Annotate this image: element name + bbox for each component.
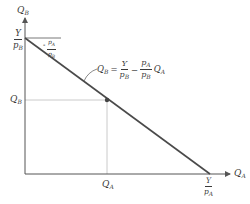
x-intercept-num: Y (205, 177, 212, 187)
budget-equation: QB = Y pB − pA pB QA (97, 59, 165, 80)
slope-num-sub: A (52, 42, 55, 47)
slope-num: pA (47, 39, 56, 50)
point-qb-label-sub: B (17, 98, 21, 105)
y-axis-label-sub: B (24, 9, 28, 16)
equation-minus: − (131, 65, 138, 75)
equation-term2-var-base: Q (154, 64, 161, 74)
equation-term1-den: pB (120, 70, 130, 80)
consumption-point (105, 98, 109, 102)
equation-pointer (84, 69, 97, 81)
equation-term1-den-sub: B (125, 73, 129, 80)
equation-term2-num: pA (140, 59, 151, 70)
equation-lhs-base: Q (97, 64, 104, 74)
y-axis-label: QB (17, 6, 29, 16)
slope-sign: - (43, 42, 45, 49)
x-intercept-den-sub: A (209, 190, 213, 197)
x-axis-label: QA (234, 169, 246, 179)
y-intercept-num: Y (14, 29, 22, 40)
point-qa-label-sub: A (109, 183, 113, 190)
equation-term2-num-sub: A (146, 61, 150, 68)
x-intercept-den: pA (204, 187, 213, 197)
equation-term2: pA pB (140, 59, 151, 80)
point-qa-label: QA (102, 180, 114, 190)
y-intercept-den-sub: B (18, 44, 22, 51)
y-intercept-den: pB (13, 40, 23, 51)
equation-lhs-sub: B (104, 68, 108, 75)
budget-constraint-diagram (0, 0, 250, 204)
slope-den-sub: B (52, 54, 55, 59)
slope-label: pA pB (47, 39, 56, 59)
equation-term1-num: Y (121, 60, 128, 70)
x-intercept-label: Y pA (204, 177, 213, 197)
equation-term2-var: QA (154, 64, 165, 75)
equation-term2-den: pB (141, 70, 151, 80)
y-intercept-label: Y pB (13, 29, 23, 51)
equation-lhs: QB (97, 64, 108, 75)
equation-term2-var-sub: A (161, 68, 165, 75)
point-qb-label: QB (10, 95, 22, 105)
equation-term2-den-sub: B (146, 73, 150, 80)
equation-term1: Y pB (120, 60, 130, 80)
equation-equals: = (110, 65, 117, 75)
x-axis-label-sub: A (241, 172, 245, 179)
slope-den: pB (48, 50, 55, 60)
